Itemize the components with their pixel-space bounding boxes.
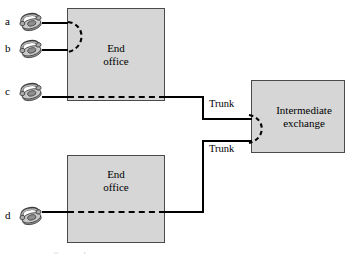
intermediate-exchange-label-line2: exchange (276, 117, 332, 130)
figure-caption-text: Figure Telephone network with end office… (47, 252, 220, 254)
telephone-icon (18, 39, 45, 59)
end-office-bottom-label-line2: office (103, 181, 128, 194)
trunk-lower-label: Trunk (208, 144, 235, 155)
figure-caption-clipped: Figure Telephone network with end office… (47, 252, 222, 259)
end-office-bottom-box: End office (67, 155, 165, 243)
through-path-bottom-office (68, 211, 165, 213)
end-office-top-label: End office (103, 42, 128, 68)
local-loop-d (42, 211, 68, 213)
subscriber-label-d: d (5, 210, 11, 221)
trunk-upper-segment-h2 (202, 118, 252, 120)
subscriber-label-a: a (5, 16, 10, 27)
intermediate-exchange-label: Intermediate exchange (276, 104, 332, 130)
switching-arc-local-call (66, 18, 92, 56)
end-office-top-label-line2: office (103, 55, 128, 68)
trunk-upper-segment-v (202, 96, 204, 120)
through-path-top-office (68, 96, 165, 98)
telephone-icon (18, 12, 45, 32)
trunk-lower-segment-h2 (202, 140, 252, 142)
end-office-bottom-label-line1: End (103, 168, 128, 181)
trunk-lower-segment-h1 (164, 211, 204, 213)
local-loop-a (42, 22, 68, 24)
trunk-upper-label: Trunk (208, 99, 235, 110)
diagram-canvas: End office End office Intermediate excha… (0, 0, 348, 261)
subscriber-label-b: b (5, 43, 11, 54)
trunk-upper-segment-h1 (164, 96, 204, 98)
subscriber-label-c: c (5, 86, 10, 97)
telephone-icon (18, 206, 45, 226)
local-loop-b (42, 49, 68, 51)
end-office-top-label-line1: End (103, 42, 128, 55)
end-office-bottom-label: End office (103, 168, 128, 194)
intermediate-exchange-label-line1: Intermediate (276, 104, 332, 117)
telephone-icon (18, 82, 45, 102)
local-loop-c (42, 96, 68, 98)
trunk-lower-segment-v (202, 140, 204, 213)
